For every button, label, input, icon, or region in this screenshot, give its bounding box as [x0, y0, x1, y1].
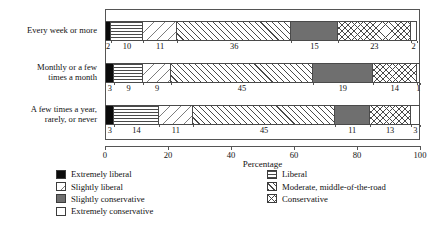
segment-value-label: 36	[230, 42, 238, 51]
bar-segment	[105, 105, 114, 125]
bar-segment	[335, 105, 370, 125]
segment-value-label: 2	[412, 42, 416, 51]
legend-column-left: Extremely liberalSlightly liberalSlightl…	[56, 168, 153, 218]
segment-value-label: 10	[123, 42, 131, 51]
bar-segment	[114, 105, 158, 125]
segment-boundary-tick	[291, 41, 292, 43]
segment-value-label: 14	[132, 126, 140, 135]
segment-boundary-tick	[114, 83, 115, 85]
legend-label: Extremely liberal	[71, 169, 132, 179]
legend-label: Conservative	[282, 194, 328, 204]
segment-value-label: 11	[156, 42, 164, 51]
segment-boundary-tick	[143, 41, 144, 43]
legend-item: Liberal	[267, 168, 386, 180]
bar-segment	[193, 105, 335, 125]
segment-value-label: 9	[127, 84, 131, 93]
legend-item: Slightly liberal	[56, 180, 153, 192]
segment-boundary-tick	[338, 41, 339, 43]
segment-value-label: 15	[310, 42, 318, 51]
segment-boundary-tick	[143, 83, 144, 85]
legend-swatch-icon	[56, 207, 66, 216]
legend-swatch-icon	[267, 170, 277, 179]
bar-segment	[111, 21, 143, 41]
legend-label: Slightly conservative	[71, 194, 145, 204]
row-label: A few times a year, rarely, or never	[0, 104, 97, 124]
segment-value-label: 3	[108, 84, 112, 93]
segment-boundary-tick	[420, 125, 421, 127]
segment-boundary-tick	[370, 125, 371, 127]
bar-segment	[143, 63, 171, 83]
segment-value-label: 13	[386, 126, 394, 135]
legend-item: Conservative	[267, 193, 386, 205]
legend-swatch-icon	[267, 182, 277, 191]
segment-value-label: 1	[416, 84, 420, 93]
bar-segment	[411, 21, 417, 41]
segment-value-label: 3	[413, 126, 417, 135]
segment-value-label: 19	[339, 84, 347, 93]
bar-segment	[105, 63, 114, 83]
bar-segment	[171, 63, 313, 83]
bar-segment	[373, 63, 417, 83]
legend-label: Extremely conservative	[71, 206, 153, 216]
legend-label: Slightly liberal	[71, 182, 123, 192]
bar-segment	[313, 63, 373, 83]
legend-item: Extremely liberal	[56, 168, 153, 180]
segment-boundary-tick	[171, 83, 172, 85]
legend-swatch-icon	[56, 170, 66, 179]
segment-value-label: 11	[348, 126, 356, 135]
segment-boundary-tick	[159, 125, 160, 127]
bar-segment	[291, 21, 338, 41]
bar-segment	[143, 21, 178, 41]
segment-value-label: 23	[370, 42, 378, 51]
bar-row	[105, 105, 420, 125]
segment-boundary-tick	[193, 125, 194, 127]
segment-boundary-tick	[373, 83, 374, 85]
legend-item: Moderate, middle-of-the-road	[267, 180, 386, 192]
segment-boundary-tick	[420, 83, 421, 85]
chart-legend: Extremely liberalSlightly liberalSlightl…	[0, 168, 431, 224]
segment-value-label: 9	[155, 84, 159, 93]
legend-item: Slightly conservative	[56, 193, 153, 205]
row-label: Monthly or a few times a month	[0, 62, 97, 82]
bar-segment	[177, 21, 290, 41]
bar-segment	[411, 105, 420, 125]
legend-swatch-icon	[56, 182, 66, 191]
stacked-bar-chart: Every week or more210113615232Monthly or…	[0, 0, 431, 226]
row-label: Every week or more	[0, 25, 97, 35]
legend-swatch-icon	[56, 194, 66, 203]
legend-label: Liberal	[282, 169, 307, 179]
segment-value-label: 14	[391, 84, 399, 93]
bar-row	[105, 21, 420, 41]
segment-value-label: 45	[260, 126, 268, 135]
segment-value-label: 3	[108, 126, 112, 135]
legend-label: Moderate, middle-of-the-road	[282, 182, 386, 192]
bar-segment	[338, 21, 410, 41]
legend-swatch-icon	[267, 194, 277, 203]
segment-boundary-tick	[114, 125, 115, 127]
segment-value-label: 2	[106, 42, 110, 51]
segment-boundary-tick	[335, 125, 336, 127]
bar-segment	[370, 105, 411, 125]
bar-segment	[417, 63, 420, 83]
segment-boundary-tick	[177, 41, 178, 43]
bar-segment	[114, 63, 142, 83]
x-axis-line	[105, 146, 420, 147]
segment-boundary-tick	[313, 83, 314, 85]
legend-column-right: LiberalModerate, middle-of-the-roadConse…	[267, 168, 386, 205]
segment-boundary-tick	[411, 125, 412, 127]
segment-value-label: 45	[238, 84, 246, 93]
segment-boundary-tick	[111, 41, 112, 43]
bar-segment	[159, 105, 194, 125]
segment-value-label: 11	[172, 126, 180, 135]
bar-row	[105, 63, 420, 83]
segment-boundary-tick	[417, 41, 418, 43]
legend-item: Extremely conservative	[56, 205, 153, 217]
